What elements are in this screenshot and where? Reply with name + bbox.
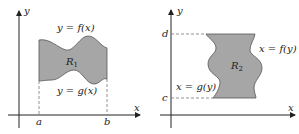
- right-y-label: y: [176, 5, 183, 16]
- left-curve-label: x = g(y): [176, 81, 216, 92]
- top-curve-label: y = f(x): [56, 22, 95, 33]
- bound-d-label: d: [162, 28, 168, 39]
- bound-b-label: b: [104, 116, 110, 127]
- right-figure: y x d c x = f(y) x = g(y) R2: [160, 5, 297, 128]
- left-x-label: x: [134, 102, 140, 113]
- bottom-curve-label: y = g(x): [56, 85, 97, 96]
- bound-a-label: a: [36, 116, 42, 127]
- bound-c-label: c: [162, 92, 168, 103]
- left-y-label: y: [23, 5, 30, 16]
- diagram-canvas: y x y = f(x) y = g(x) R1 a b y x d c x =…: [0, 0, 299, 134]
- right-curve-label: x = f(y): [259, 43, 297, 54]
- right-x-label: x: [288, 102, 294, 113]
- left-figure: y x y = f(x) y = g(x) R1 a b: [8, 5, 140, 128]
